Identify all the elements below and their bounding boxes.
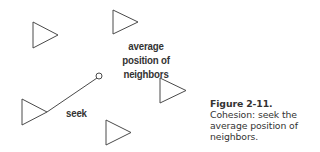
caption-line-2: average position of [210, 120, 300, 131]
agent-1-triangle-icon [33, 22, 58, 48]
average-position-label: average position of neighbors [116, 39, 176, 81]
figure-caption: Figure 2-11. Cohesion: seek the average … [210, 98, 300, 142]
caption-line-3: neighbors. [210, 131, 300, 142]
caption-line-1: Cohesion: seek the [210, 109, 300, 120]
agent-seeker-triangle-icon [22, 99, 47, 125]
average-position-marker-icon [96, 73, 102, 79]
figure-number: Figure 2-11. [210, 98, 300, 109]
agent-5-triangle-icon [106, 120, 131, 145]
seek-label: seek [66, 106, 92, 120]
average-position-label-line-2: position of [116, 53, 176, 67]
agent-2-triangle-icon [113, 10, 138, 34]
average-position-label-line-1: average [116, 39, 176, 53]
average-position-label-line-3: neighbors [116, 67, 176, 81]
agent-4-triangle-icon [160, 78, 186, 103]
